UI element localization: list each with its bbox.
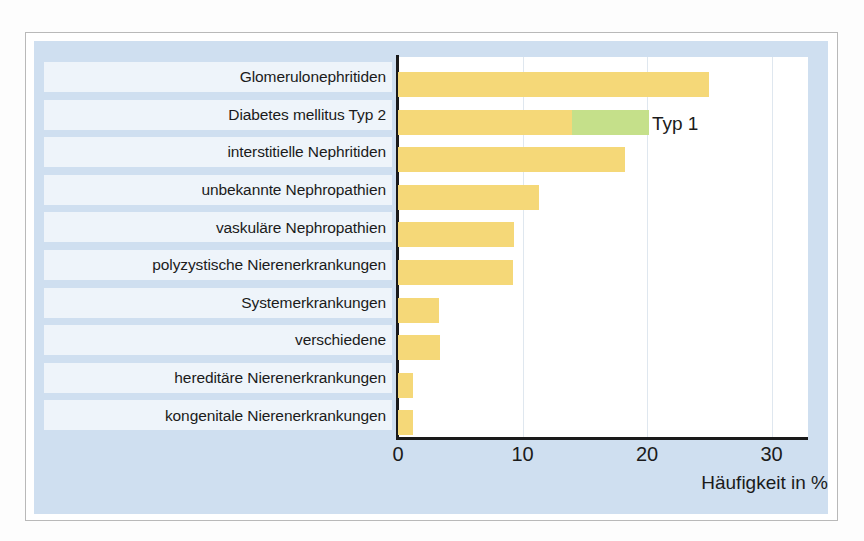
category-label-row: vaskuläre Nephropathien xyxy=(44,212,392,242)
x-tick-label-10: 10 xyxy=(511,444,533,464)
category-label: polyzystische Nierenerkrankungen xyxy=(152,257,386,273)
bar-segment xyxy=(398,260,513,285)
bar-row xyxy=(398,147,809,172)
bar-row xyxy=(398,298,809,323)
figure-page: GlomerulonephritidenDiabetes mellitus Ty… xyxy=(0,0,864,541)
category-label-column: GlomerulonephritidenDiabetes mellitus Ty… xyxy=(44,57,392,437)
bar-segment xyxy=(398,335,440,360)
bar-segment xyxy=(572,110,649,135)
bar-row xyxy=(398,72,809,97)
x-tick-label-20: 20 xyxy=(636,444,658,464)
category-label: Glomerulonephritiden xyxy=(240,69,386,85)
category-label-row: Glomerulonephritiden xyxy=(44,62,392,92)
category-label-row: Systemerkrankungen xyxy=(44,288,392,318)
bar-row xyxy=(398,110,809,135)
category-label-row: kongenitale Nierenerkrankungen xyxy=(44,400,392,430)
bar-row xyxy=(398,410,809,435)
bar-row xyxy=(398,335,809,360)
category-label-row: interstitielle Nephritiden xyxy=(44,137,392,167)
bar-segment xyxy=(398,110,572,135)
bar-segment xyxy=(398,72,709,97)
bar-row xyxy=(398,222,809,247)
category-label: verschiedene xyxy=(295,332,386,348)
bar-segment xyxy=(398,410,413,435)
series-annotation-typ-1: Typ 1 xyxy=(652,114,698,133)
bar-row xyxy=(398,260,809,285)
bar-row xyxy=(398,185,809,210)
bar-segment xyxy=(398,147,625,172)
category-label: Diabetes mellitus Typ 2 xyxy=(228,107,386,123)
x-axis-line xyxy=(396,437,808,440)
category-label: hereditäre Nierenerkrankungen xyxy=(174,370,386,386)
bar-segment xyxy=(398,373,413,398)
category-label: Systemerkrankungen xyxy=(241,295,386,311)
category-label: vaskuläre Nephropathien xyxy=(216,220,386,236)
category-label-row: hereditäre Nierenerkrankungen xyxy=(44,363,392,393)
bar-segment xyxy=(398,298,439,323)
category-label-row: verschiedene xyxy=(44,325,392,355)
x-tick-label-0: 0 xyxy=(392,444,403,464)
category-label-row: unbekannte Nephropathien xyxy=(44,175,392,205)
category-label: unbekannte Nephropathien xyxy=(201,182,386,198)
x-axis-title: Häufigkeit in % xyxy=(701,473,828,492)
bar-row xyxy=(398,373,809,398)
x-tick-label-30: 30 xyxy=(760,444,782,464)
bar-segment xyxy=(398,185,539,210)
category-label-row: Diabetes mellitus Typ 2 xyxy=(44,100,392,130)
category-label: kongenitale Nierenerkrankungen xyxy=(165,408,386,424)
category-label-row: polyzystische Nierenerkrankungen xyxy=(44,250,392,280)
bar-segment xyxy=(398,222,514,247)
category-label: interstitielle Nephritiden xyxy=(227,144,386,160)
